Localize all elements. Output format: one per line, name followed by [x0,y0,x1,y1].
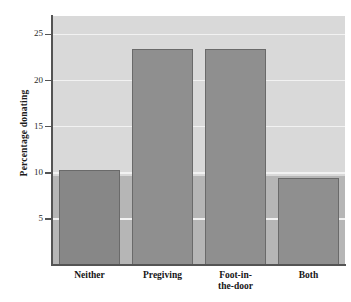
y-tick-label: 15 [19,122,43,131]
x-tick-label: Foot-in- the-door [199,270,272,292]
bar [278,178,340,265]
x-tick-label: Neither [53,270,126,281]
y-tick-label: 10 [19,168,43,177]
y-tick-label: 5 [19,214,43,223]
bar [59,170,121,265]
y-tick-mark [45,34,52,36]
gridline [53,34,345,36]
y-tick-mark [45,172,52,174]
x-tick-label: Both [272,270,345,281]
bar [132,49,194,265]
x-axis-line [51,264,346,266]
plot-area [53,16,345,265]
y-tick-mark [45,218,52,220]
bar-chart: Percentage donating 510152025 NeitherPre… [0,0,351,302]
plot-background-upper [53,16,345,176]
x-tick-label: Pregiving [126,270,199,281]
y-tick-label: 20 [19,76,43,85]
y-tick-mark [45,80,52,82]
bar [205,49,267,265]
gridline [53,126,345,128]
y-tick-label: 25 [19,29,43,38]
y-tick-mark [45,126,52,128]
y-axis-line [51,15,53,266]
gridline [53,80,345,82]
